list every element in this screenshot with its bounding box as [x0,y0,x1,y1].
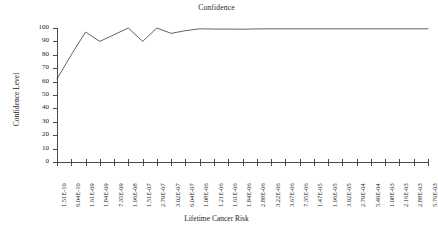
x-tick-label: 3.67E-06 [288,183,295,207]
x-tick-label: 1.08E-06 [202,183,209,207]
y-tick-label: 30 [42,117,49,125]
x-tick-mark [200,159,201,166]
x-tick-label: 1.96E-05 [331,183,338,207]
x-tick-mark [100,159,101,166]
y-tick-label: 80 [42,50,49,58]
x-tick-mark [257,159,258,166]
x-tick-label: 7.35E-06 [302,183,309,207]
y-tick-label: 0 [46,157,50,165]
x-tick-mark [57,159,58,166]
x-tick-label: 6.04E-07 [188,183,195,207]
x-tick-mark [185,159,186,166]
x-tick-mark [314,159,315,166]
x-tick-mark [157,159,158,166]
x-tick-mark [214,159,215,166]
y-axis-line [57,28,58,163]
x-tick-label: 2.16E-03 [402,183,409,207]
x-tick-mark [399,159,400,166]
y-tick-label: 60 [42,77,49,85]
x-tick-mark [143,159,144,166]
x-tick-label: 5.40E-04 [374,183,381,207]
y-tick-label: 20 [42,130,49,138]
x-tick-label: 5.76E-03 [431,183,438,207]
y-tick-label: 70 [42,63,49,71]
x-tick-label: 1.51E-10 [60,183,67,207]
x-tick-mark [171,159,172,166]
x-tick-label: 2.88E-03 [416,183,423,207]
x-tick-mark [128,159,129,166]
y-tick-label: 90 [42,36,49,44]
x-tick-mark [385,159,386,166]
y-tick-label: 50 [42,90,49,98]
x-tick-mark [271,159,272,166]
y-tick-label: 10 [42,144,49,152]
x-tick-mark [243,159,244,166]
y-tick-label: 100 [39,23,50,31]
x-tick-mark [328,159,329,166]
x-tick-label: 3.02E-07 [174,183,181,207]
x-tick-mark [342,159,343,166]
x-tick-label: 2.70E-07 [159,183,166,207]
x-tick-label: 3.92E-05 [345,183,352,207]
y-axis-ticks: 0102030405060708090100 [0,28,57,162]
y-tick-label: 40 [42,103,49,111]
x-tick-label: 1.61E-09 [88,183,95,207]
x-axis-label: Lifetime Cancer Risk [0,214,433,223]
x-tick-mark [285,159,286,166]
x-tick-mark [414,159,415,166]
x-tick-label: 1.47E-05 [316,183,323,207]
x-tick-mark [300,159,301,166]
x-tick-label: 1.61E-06 [231,183,238,207]
x-tick-label: 1.08E-03 [388,183,395,207]
x-tick-label: 1.96E-08 [131,183,138,207]
x-tick-mark [228,159,229,166]
x-tick-label: 1.51E-07 [145,183,152,207]
confidence-series-line [57,28,428,79]
x-tick-label: 1.84E-06 [245,183,252,207]
x-tick-label: 6.04E-10 [74,183,81,207]
x-tick-label: 2.70E-04 [359,183,366,207]
x-tick-mark [86,159,87,166]
x-tick-mark [357,159,358,166]
x-tick-label: 1.21E-06 [217,183,224,207]
x-tick-label: 7.35E-09 [117,183,124,207]
x-tick-mark [71,159,72,166]
x-tick-mark [428,159,429,166]
x-tick-label: 2.88E-06 [259,183,266,207]
x-tick-mark [114,159,115,166]
chart-title: Confidence [0,3,433,12]
x-tick-label: 3.22E-06 [274,183,281,207]
x-tick-mark [371,159,372,166]
x-tick-label: 1.84E-09 [102,183,109,207]
